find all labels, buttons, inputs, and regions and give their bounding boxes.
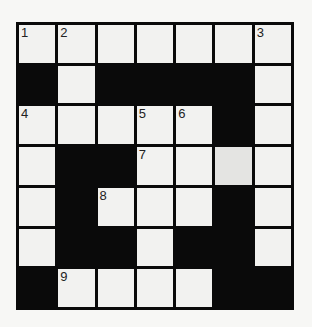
crossword-cell[interactable]: [176, 25, 212, 63]
black-cell: [176, 66, 212, 104]
crossword-cell[interactable]: [255, 188, 291, 226]
crossword-cell[interactable]: 2: [58, 25, 94, 63]
black-cell: [58, 147, 94, 185]
black-cell: [215, 269, 251, 307]
crossword-cell[interactable]: 3: [255, 25, 291, 63]
crossword-cell[interactable]: 5: [137, 106, 173, 144]
clue-number: 2: [60, 26, 67, 39]
clue-number: 6: [178, 107, 185, 120]
clue-number: 5: [139, 107, 146, 120]
crossword-cell[interactable]: 9: [58, 269, 94, 307]
clue-number: 3: [257, 26, 264, 39]
crossword-cell[interactable]: [255, 229, 291, 267]
black-cell: [137, 66, 173, 104]
crossword-cell[interactable]: [98, 25, 134, 63]
crossword-cell[interactable]: [215, 25, 251, 63]
black-cell: [98, 229, 134, 267]
crossword-cell[interactable]: [176, 188, 212, 226]
crossword-cell[interactable]: 7: [137, 147, 173, 185]
crossword-cell[interactable]: [255, 106, 291, 144]
black-cell: [176, 229, 212, 267]
crossword-cell[interactable]: [176, 269, 212, 307]
black-cell: [19, 66, 55, 104]
clue-number: 4: [21, 107, 28, 120]
black-cell: [58, 188, 94, 226]
crossword-cell[interactable]: [255, 147, 291, 185]
crossword-grid: 123456789: [16, 22, 294, 310]
black-cell: [215, 229, 251, 267]
black-cell: [98, 66, 134, 104]
black-cell: [98, 147, 134, 185]
crossword-cell[interactable]: [137, 269, 173, 307]
crossword-cell[interactable]: [137, 25, 173, 63]
crossword-cell[interactable]: [58, 106, 94, 144]
clue-number: 9: [60, 270, 67, 283]
crossword-cell[interactable]: [19, 229, 55, 267]
crossword-cell[interactable]: [98, 269, 134, 307]
crossword-cell[interactable]: [137, 229, 173, 267]
crossword-cell[interactable]: 4: [19, 106, 55, 144]
crossword-cell[interactable]: [19, 147, 55, 185]
black-cell: [19, 269, 55, 307]
crossword-cell[interactable]: [58, 66, 94, 104]
black-cell: [58, 229, 94, 267]
clue-number: 8: [100, 189, 107, 202]
crossword-cell[interactable]: 6: [176, 106, 212, 144]
black-cell: [215, 188, 251, 226]
crossword-cell[interactable]: [176, 147, 212, 185]
clue-number: 1: [21, 26, 28, 39]
crossword-cell[interactable]: 1: [19, 25, 55, 63]
clue-number: 7: [139, 148, 146, 161]
crossword-cell[interactable]: [19, 188, 55, 226]
black-cell: [255, 269, 291, 307]
crossword-cell[interactable]: [255, 66, 291, 104]
black-cell: [215, 66, 251, 104]
black-cell: [215, 106, 251, 144]
crossword-cell[interactable]: [137, 188, 173, 226]
crossword-cell[interactable]: [215, 147, 251, 185]
crossword-cell[interactable]: [98, 106, 134, 144]
crossword-cell[interactable]: 8: [98, 188, 134, 226]
